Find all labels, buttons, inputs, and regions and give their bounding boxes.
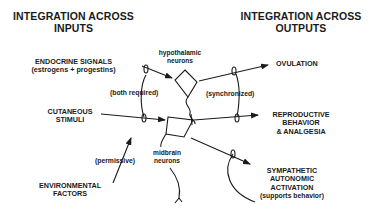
sympathetic-line4: (supports behavior) — [252, 192, 332, 200]
arrow-midbrain-to-reproductive — [194, 115, 258, 120]
ovulation-label: OVULATION — [276, 60, 318, 68]
heading-outputs-line1: INTEGRATION ACROSS — [232, 10, 370, 22]
label-midbrain-neurons: midbrain neurons — [147, 149, 187, 164]
arrow-cutaneous-to-midbrain — [101, 114, 165, 120]
heading-outputs-line2: OUTPUTS — [232, 22, 370, 34]
heading-inputs-line2: INPUTS — [6, 22, 141, 34]
output-reproductive-behavior: REPRODUCTIVE BEHAVIOR & ANALGESIA — [262, 111, 340, 136]
input-cutaneous-stimuli: CUTANEOUS STIMULI — [40, 108, 100, 125]
annotation-permissive: (permissive) — [95, 157, 135, 165]
endocrine-subtitle: (estrogens + progestins) — [16, 66, 131, 74]
hypothalamic-line2: neurons — [152, 57, 208, 65]
midbrain-line2: neurons — [147, 157, 187, 165]
bracket-supports-behavior — [228, 154, 255, 202]
hypothalamic-line1: hypothalamic — [152, 49, 208, 57]
midbrain-neuron-icon — [166, 117, 193, 137]
heading-outputs: INTEGRATION ACROSS OUTPUTS — [232, 10, 370, 34]
label-hypothalamic-neurons: hypothalamic neurons — [152, 49, 208, 64]
output-ovulation: OVULATION — [276, 60, 318, 68]
annotation-synchronized: (synchronized) — [206, 90, 254, 98]
midbrain-line1: midbrain — [147, 149, 187, 157]
arrow-midbrain-to-sympathetic — [191, 138, 250, 164]
reproductive-line3: & ANALGESIA — [262, 128, 340, 136]
arrow-endocrine-to-hypothalamic — [142, 66, 172, 78]
output-sympathetic-activation: SYMPATHETIC AUTONOMIC ACTIVATION (suppor… — [252, 167, 332, 200]
heading-inputs: INTEGRATION ACROSS INPUTS — [6, 10, 141, 34]
input-environmental-factors: ENVIRONMENTAL FACTORS — [30, 182, 110, 199]
cutaneous-line2: STIMULI — [40, 116, 100, 124]
heading-inputs-line1: INTEGRATION ACROSS — [6, 10, 141, 22]
sympathetic-line3: ACTIVATION — [252, 184, 332, 192]
environmental-line2: FACTORS — [30, 190, 110, 198]
input-endocrine-signals: ENDOCRINE SIGNALS (estrogens + progestin… — [16, 58, 131, 75]
hypothalamic-neuron-icon — [175, 70, 197, 97]
midbrain-descending-axon — [170, 168, 180, 198]
annotation-both-required: (both required) — [110, 89, 158, 97]
